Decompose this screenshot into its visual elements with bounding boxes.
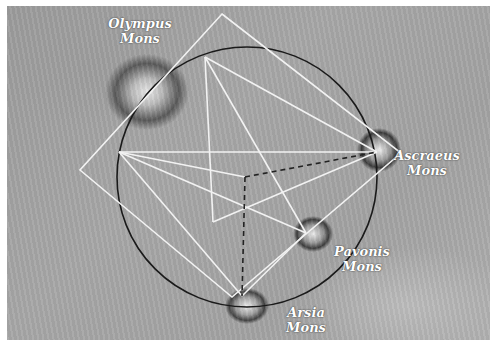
label-line: Ascraeus xyxy=(387,148,467,163)
dashed-line xyxy=(245,152,377,177)
star-line xyxy=(205,57,213,222)
star-line xyxy=(205,57,306,233)
star-line xyxy=(242,233,306,296)
label-line: Olympus xyxy=(100,16,180,31)
label-olympus-mons: Olympus Mons xyxy=(100,16,180,46)
label-line: Mons xyxy=(266,320,346,335)
label-line: Arsia xyxy=(266,305,346,320)
star-line xyxy=(119,152,242,296)
label-line: Mons xyxy=(387,163,467,178)
label-line: Pavonis xyxy=(322,244,402,259)
label-line: Mons xyxy=(322,259,402,274)
star-line xyxy=(205,57,377,152)
dashed-line xyxy=(242,177,245,296)
mars-tharsis-figure: Olympus Mons Ascraeus Mons Pavonis Mons … xyxy=(0,0,493,346)
label-arsia-mons: Arsia Mons xyxy=(266,305,346,335)
star-line xyxy=(213,152,377,222)
label-ascraeus-mons: Ascraeus Mons xyxy=(387,148,467,178)
label-line: Mons xyxy=(100,31,180,46)
label-pavonis-mons: Pavonis Mons xyxy=(322,244,402,274)
